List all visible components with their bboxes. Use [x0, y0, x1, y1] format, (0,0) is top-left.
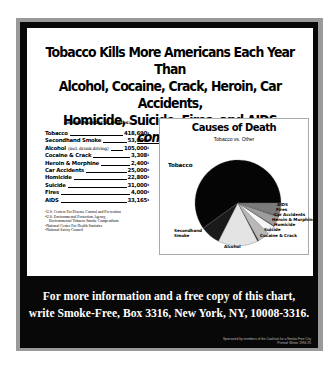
cause-name: Homicide: [45, 174, 72, 181]
dot-leader: [111, 150, 123, 151]
deaths-list-row: Fires4,0004: [45, 189, 149, 196]
pie-chart-subtitle: Tobacco vs. Other: [160, 136, 308, 142]
cause-name: Car Accidents: [45, 167, 84, 174]
headline-line-2: Alcohol, Cocaine, Crack, Heroin, Car Acc…: [37, 78, 303, 112]
sponsor-credit: Sponsored by members of the Coalition fo…: [223, 337, 311, 345]
deaths-list-row: Heroin & Morphine2,4001: [45, 160, 149, 167]
death-count: 22,8003: [128, 174, 150, 181]
deaths-list-row: Car Accidents25,0004: [45, 167, 149, 174]
dot-leader: [74, 179, 127, 180]
dot-leader: [61, 202, 127, 203]
pie-chart-box: Causes of Death Tobacco vs. Other Tobacc…: [159, 118, 309, 255]
pie-chart-title: Causes of Death: [160, 122, 308, 133]
pie-label-suicide: Suicide: [264, 228, 281, 233]
death-count: 31,0003: [128, 182, 150, 189]
poster-main-panel: Tobacco Kills More Americans Each Year T…: [27, 28, 313, 276]
deaths-list-row: Suicide31,0003: [45, 182, 149, 189]
footer-line-1: For more information and a free copy of …: [20, 288, 318, 305]
cause-name: Cocaine & Crack: [45, 152, 91, 159]
deaths-list-row: Cocaine & Crack3,3081: [45, 152, 149, 159]
footer-contact-info: For more information and a free copy of …: [20, 288, 318, 322]
deaths-list-row: AIDS33,1653: [45, 197, 149, 204]
deaths-list-row: Tobacco418,6901: [45, 130, 149, 137]
cause-name: Fires: [45, 189, 59, 196]
cause-name: Alcohol: [45, 145, 66, 152]
cause-name: Heroin & Morphine: [45, 160, 99, 167]
cause-name: AIDS: [45, 197, 59, 204]
pie-label-alcohol: Alcohol: [224, 245, 241, 250]
death-count: 33,1653: [128, 197, 150, 204]
cause-name: Suicide: [45, 182, 66, 189]
deaths-list-row: Alcohol(incl. drunk driving)105,0001: [45, 145, 149, 152]
headline-line-1: Tobacco Kills More Americans Each Year T…: [37, 44, 303, 78]
footnotes: ¹U.S. Centers For Disease Control and Pr…: [45, 210, 149, 233]
death-count: 4,0004: [131, 189, 149, 196]
deaths-list-row: Homicide22,8003: [45, 174, 149, 181]
dot-leader: [86, 172, 126, 173]
pie-label-heroin-morphine: Heroin & Morphine: [272, 218, 315, 223]
dot-leader: [101, 165, 130, 166]
death-count: 2,4001: [131, 160, 149, 167]
dot-leader: [70, 135, 123, 136]
cause-name: Tobacco: [45, 130, 68, 137]
death-count: 105,0001: [124, 145, 149, 152]
deaths-list: Annual Number of Deaths: Tobacco418,6901…: [45, 120, 149, 233]
death-count: 53,0002: [128, 137, 150, 144]
deaths-list-rows: Tobacco418,6901Secondhand Smoke53,0002Al…: [45, 130, 149, 204]
cause-name: Secondhand Smoke: [45, 137, 101, 144]
pie-label-aids: AIDS: [277, 203, 288, 208]
dot-leader: [61, 194, 130, 195]
death-count: 25,0004: [128, 167, 150, 174]
pie-label-secondhand-smoke: Secondhand Smoke: [174, 229, 200, 238]
sponsor-line-2: Printed: Winter 1994-95: [223, 341, 311, 345]
death-count: 418,6901: [124, 130, 149, 137]
pie-label-car-accidents: Car Accidents: [274, 213, 305, 218]
death-count: 3,3081: [131, 152, 149, 159]
pie-label-homicide: Homicide: [274, 223, 295, 228]
deaths-list-row: Secondhand Smoke53,0002: [45, 137, 149, 144]
pie-label-tobacco: Tobacco: [168, 163, 192, 168]
dot-leader: [68, 187, 127, 188]
footer-line-2: write Smoke-Free, Box 3316, New York, NY…: [20, 305, 318, 322]
footnote: ⁴National Safety Council: [45, 228, 149, 233]
dot-leader: [93, 157, 130, 158]
deaths-list-heading: Annual Number of Deaths:: [45, 120, 149, 125]
pie-label-cocaine-crack: Cocaine & Crack: [260, 234, 297, 239]
dot-leader: [103, 142, 126, 143]
cause-note: (incl. drunk driving): [68, 145, 109, 152]
pie-label-fires: Fires: [276, 208, 287, 213]
